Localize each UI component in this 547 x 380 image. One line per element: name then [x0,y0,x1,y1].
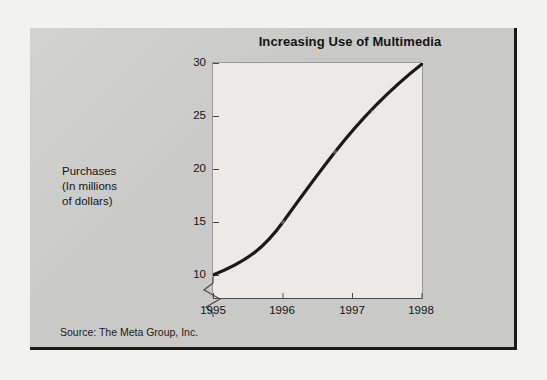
y-tick-label: 20 [180,163,206,174]
y-axis-caption-line-2: (In millions [62,179,182,194]
y-tick-label: 30 [180,57,206,68]
data-series-line [213,64,422,275]
x-tick-label: 1995 [193,304,233,316]
source-note: Source: The Meta Group, Inc. [60,326,198,338]
y-axis-caption: Purchases (In millions of dollars) [62,164,182,209]
x-axis-tick-labels: 1995 1996 1997 1998 [212,304,424,322]
y-axis-caption-line-3: of dollars) [62,194,182,209]
y-axis-tick-labels: 30 25 20 15 10 [176,62,206,298]
page-title: Increasing Use of Multimedia [200,34,500,49]
y-tick-label: 15 [180,216,206,227]
y-axis-caption-line-1: Purchases [62,164,182,179]
x-tick-label: 1997 [332,304,372,316]
y-tick-label: 25 [180,110,206,121]
y-axis-ticks [213,64,219,276]
x-tick-label: 1998 [401,304,441,316]
plot-area [212,62,422,298]
chart-plot-svg [213,63,423,299]
chart-panel: Increasing Use of Multimedia Purchases (… [30,28,517,350]
figure-root: Increasing Use of Multimedia Purchases (… [0,0,547,380]
x-tick-label: 1996 [262,304,302,316]
